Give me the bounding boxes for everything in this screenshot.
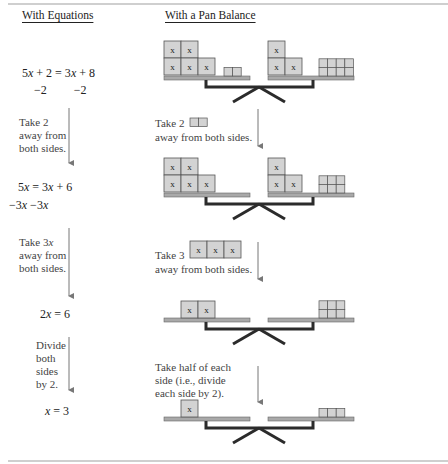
balance-3 [164, 301, 354, 344]
unit-pair-icon [190, 118, 207, 127]
diagram-graphics: x [0, 0, 448, 464]
balance-4 [164, 400, 354, 443]
balance-1 [164, 41, 354, 102]
balance-2 [164, 158, 354, 219]
x-triple-icon [190, 241, 241, 258]
